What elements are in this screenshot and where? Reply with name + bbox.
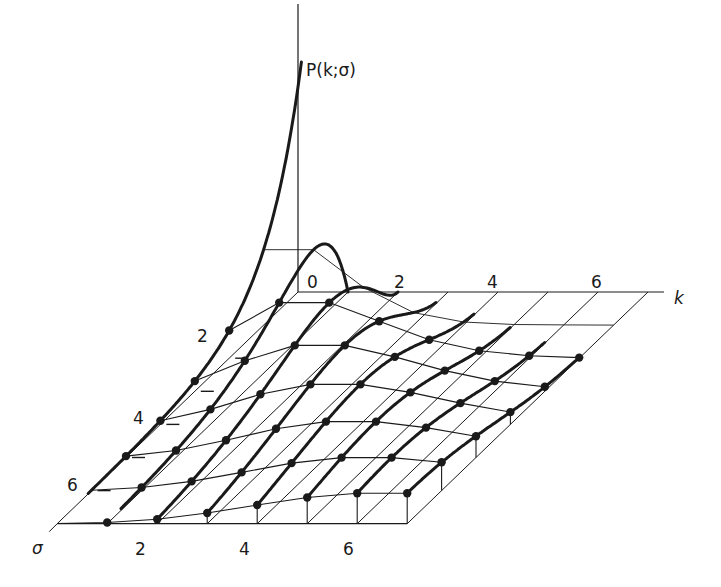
grid-point-dot	[191, 377, 199, 385]
grid-point-dot	[153, 515, 161, 523]
grid-point-dot	[156, 417, 164, 425]
p-axis-label: P(k;σ)	[306, 60, 356, 80]
grid-point-dot	[103, 518, 111, 526]
grid-point-dot	[387, 453, 395, 461]
grid-point-dot	[475, 347, 483, 355]
sigma-axis-label: σ	[32, 538, 44, 558]
grid-point-dot	[406, 388, 414, 396]
grid-point-dot	[237, 468, 245, 476]
grid-point-dot	[437, 458, 445, 466]
base-grid-line-k	[407, 292, 648, 524]
sigma-tick-label-6: 6	[67, 475, 78, 495]
k-tick-label-6: 6	[591, 272, 602, 292]
sigma-axis-ticks	[98, 358, 249, 490]
grid-point-markers	[103, 298, 583, 526]
grid-point-dot	[422, 423, 430, 431]
grid-point-dot	[253, 501, 261, 509]
k-axis-label: k	[674, 288, 685, 308]
grid-point-dot	[172, 446, 180, 454]
constant-k-curves	[88, 62, 576, 519]
grid-point-dot	[303, 493, 311, 501]
grid-point-dot	[353, 489, 361, 497]
front-tick-label-6: 6	[343, 539, 354, 559]
grid-point-dot	[375, 317, 383, 325]
grid-point-dot	[425, 336, 433, 344]
grid-point-dot	[472, 432, 480, 440]
grid-point-dot	[306, 380, 314, 388]
front-tick-label-4: 4	[239, 539, 250, 559]
grid-point-dot	[541, 383, 549, 391]
grid-point-dot	[222, 436, 230, 444]
sigma-axis-extension	[49, 524, 57, 532]
grid-point-dot	[506, 408, 514, 416]
poisson-surface-figure: P(k;σ) k σ 0 2 4 6 2 4 6 2 4 6	[0, 0, 721, 587]
grid-point-dot	[403, 489, 411, 497]
grid-point-dot	[441, 366, 449, 374]
sigma-row-line	[57, 493, 407, 523]
grid-point-dot	[256, 390, 264, 398]
grid-point-dot	[491, 377, 499, 385]
k-tick-label-4: 4	[487, 272, 498, 292]
base-grid-line-k	[307, 292, 548, 524]
grid-point-dot	[287, 459, 295, 467]
front-tick-label-2: 2	[135, 539, 146, 559]
sigma-tick-label-2: 2	[197, 326, 208, 346]
grid-point-dot	[203, 509, 211, 517]
grid-point-dot	[206, 405, 214, 413]
grid-point-dot	[275, 298, 283, 306]
k-tick-label-0: 0	[307, 272, 318, 292]
grid-point-dot	[456, 399, 464, 407]
grid-point-dot	[341, 341, 349, 349]
grid-point-dot	[272, 425, 280, 433]
grid-point-dot	[322, 417, 330, 425]
grid-point-dot	[325, 298, 333, 306]
k-tick-label-2: 2	[394, 272, 405, 292]
grid-point-dot	[337, 453, 345, 461]
grid-point-dot	[122, 452, 130, 460]
grid-point-dot	[187, 477, 195, 485]
grid-point-dot	[391, 353, 399, 361]
grid-point-dot	[137, 483, 145, 491]
grid-point-dot	[372, 417, 380, 425]
grid-point-dot	[225, 326, 233, 334]
constant-sigma-lines	[57, 250, 613, 524]
grid-point-dot	[575, 353, 583, 361]
grid-point-dot	[291, 341, 299, 349]
grid-point-dot	[525, 352, 533, 360]
sigma-tick-label-4: 4	[133, 408, 144, 428]
grid-point-dot	[356, 380, 364, 388]
